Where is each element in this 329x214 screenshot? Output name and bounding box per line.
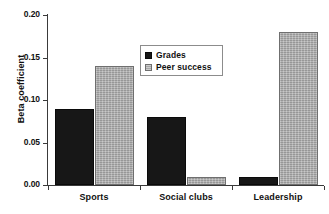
y-axis-tick-label: 0.10: [24, 94, 40, 104]
bar-chart: Beta coefficient 0.000.050.100.150.20 Sp…: [0, 0, 329, 214]
bar-grades: [239, 177, 278, 186]
y-axis-tick: 0.00: [0, 185, 47, 186]
y-axis-tick-label: 0.00: [24, 179, 40, 189]
legend-entry-peer-success: Peer success: [145, 61, 212, 73]
x-axis-tick: [324, 186, 325, 190]
y-axis-tick: 0.05: [0, 143, 47, 144]
x-axis-label-leadership: Leadership: [232, 192, 324, 202]
bar-grades: [147, 117, 186, 185]
legend-swatch-grades-icon: [145, 52, 152, 59]
x-axis-label-social-clubs: Social clubs: [140, 192, 232, 202]
legend-label-peer-success: Peer success: [156, 63, 212, 72]
y-axis-tick: 0.20: [0, 15, 47, 16]
y-axis-tick-label: 0.15: [24, 52, 40, 62]
y-axis-tick-label: 0.20: [24, 9, 40, 19]
x-axis-tick: [140, 186, 141, 190]
bar-group: [48, 15, 140, 185]
y-axis-tick-mark: [43, 100, 47, 101]
x-axis-tick: [48, 186, 49, 190]
y-axis-tick-mark: [43, 185, 47, 186]
x-axis-label-sports: Sports: [48, 192, 140, 202]
chart-legend: Grades Peer success: [140, 45, 223, 76]
legend-label-grades: Grades: [156, 51, 186, 60]
bar-grades: [55, 109, 94, 186]
x-axis-line: [47, 185, 324, 186]
legend-entry-grades: Grades: [145, 49, 186, 61]
bar-peer-success: [279, 32, 318, 185]
plot-area: [48, 15, 324, 185]
x-axis-tick: [232, 186, 233, 190]
legend-swatch-peer-success-icon: [145, 64, 152, 71]
y-axis-tick: 0.10: [0, 100, 47, 101]
bar-group: [232, 15, 324, 185]
y-axis-tick-mark: [43, 143, 47, 144]
bar-peer-success: [187, 177, 226, 186]
y-axis-tick: 0.15: [0, 58, 47, 59]
bar-peer-success: [95, 66, 134, 185]
y-axis-label: Beta coefficient: [16, 29, 26, 149]
y-axis-tick-label: 0.05: [24, 137, 40, 147]
y-axis-tick-mark: [43, 15, 47, 16]
bar-group: [140, 15, 232, 185]
y-axis-tick-mark: [43, 58, 47, 59]
